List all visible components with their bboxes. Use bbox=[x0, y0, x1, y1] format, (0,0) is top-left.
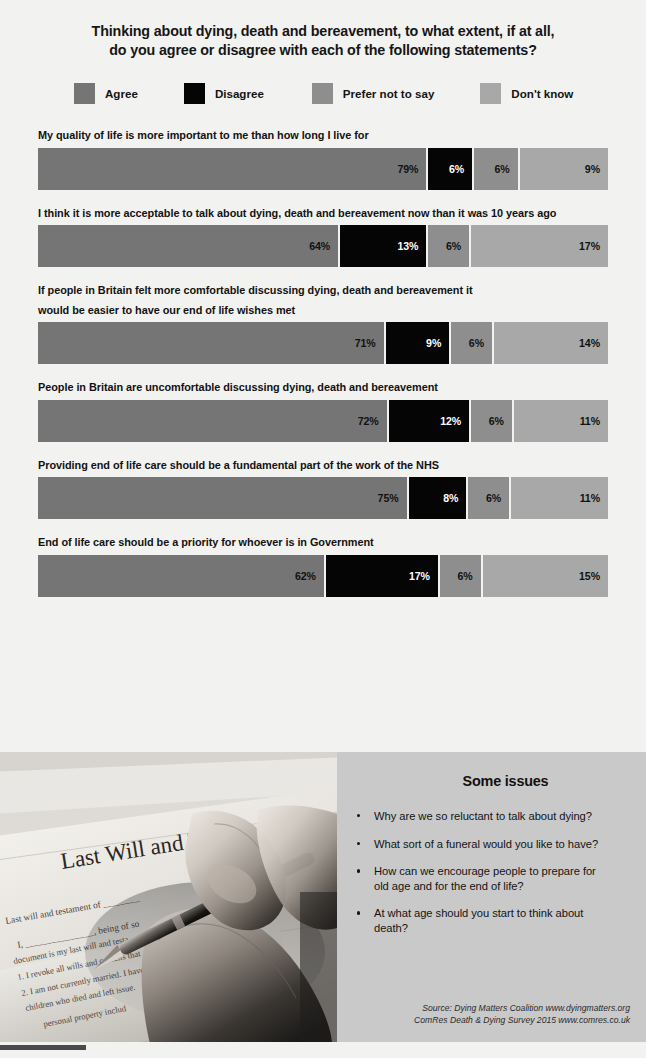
legend-item-dont-know: Don't know bbox=[480, 83, 573, 104]
bar-segment-agree[interactable]: 64% bbox=[38, 225, 340, 267]
page-title-line-1: Thinking about dying, death and bereavem… bbox=[34, 22, 612, 41]
bar-segment-dontknow[interactable]: 17% bbox=[471, 225, 608, 267]
issues-title: Some issues bbox=[383, 773, 628, 789]
bar-segment-prefer[interactable]: 6% bbox=[428, 225, 471, 267]
bar-segment-disagree[interactable]: 8% bbox=[409, 477, 469, 519]
stacked-bar: 62% 17% 6% 15% bbox=[38, 555, 608, 597]
legend-label-disagree: Disagree bbox=[215, 87, 264, 100]
bar-segment-dontknow[interactable]: 11% bbox=[514, 400, 608, 442]
chart-row: People in Britain are uncomfortable disc… bbox=[38, 380, 608, 442]
bar-segment-agree[interactable]: 79% bbox=[38, 148, 428, 190]
page-title-line-2: do you agree or disagree with each of th… bbox=[34, 41, 612, 60]
chart-row-label: People in Britain are uncomfortable disc… bbox=[38, 380, 608, 395]
source-line-1: Source: Dying Matters Coalition www.dyin… bbox=[414, 1003, 630, 1015]
bottom-strip bbox=[0, 1042, 646, 1058]
stacked-bar: 79% 6% 6% 9% bbox=[38, 148, 608, 190]
legend-item-agree: Agree bbox=[74, 83, 138, 104]
bullet-dot-icon bbox=[357, 842, 360, 845]
source-attribution: Source: Dying Matters Coalition www.dyin… bbox=[414, 1003, 630, 1026]
bar-segment-dontknow[interactable]: 9% bbox=[520, 148, 608, 190]
source-line-2: ComRes Death & Dying Survey 2015 www.com… bbox=[414, 1015, 630, 1027]
bottom-rule bbox=[0, 1045, 86, 1050]
chart-row-label: If people in Britain felt more comfortab… bbox=[38, 283, 608, 298]
stacked-bar: 64% 13% 6% 17% bbox=[38, 225, 608, 267]
list-item-text: Why are we so reluctant to talk about dy… bbox=[374, 810, 592, 822]
bar-segment-agree[interactable]: 72% bbox=[38, 400, 389, 442]
bar-segment-prefer[interactable]: 6% bbox=[451, 322, 494, 364]
chart-legend: Agree Disagree Prefer not to say Don't k… bbox=[34, 83, 612, 104]
bullet-dot-icon bbox=[357, 814, 360, 817]
bottom-section: Last Will and Testa Last will and testam… bbox=[0, 752, 646, 1058]
list-item-text-line2: old age and for the end of life? bbox=[374, 880, 524, 892]
bar-segment-agree[interactable]: 71% bbox=[38, 322, 386, 364]
bar-segment-prefer[interactable]: 6% bbox=[471, 400, 514, 442]
bar-segment-prefer[interactable]: 6% bbox=[474, 148, 520, 190]
legend-swatch-agree-icon bbox=[74, 83, 95, 104]
bullet-dot-icon bbox=[357, 869, 360, 872]
bar-segment-prefer[interactable]: 6% bbox=[468, 477, 511, 519]
list-item: Why are we so reluctant to talk about dy… bbox=[351, 809, 628, 824]
last-will-photo: Last Will and Testa Last will and testam… bbox=[0, 752, 337, 1042]
chart-row: Providing end of life care should be a f… bbox=[38, 458, 608, 520]
bar-segment-disagree[interactable]: 12% bbox=[389, 400, 472, 442]
chart-row-label: Providing end of life care should be a f… bbox=[38, 458, 608, 473]
legend-label-dont-know: Don't know bbox=[511, 87, 573, 100]
chart-row-label: I think it is more acceptable to talk ab… bbox=[38, 206, 608, 221]
legend-label-agree: Agree bbox=[105, 87, 138, 100]
legend-swatch-dontknow-icon bbox=[480, 83, 501, 104]
bullet-dot-icon bbox=[357, 911, 360, 914]
some-issues-panel: Some issues Why are we so reluctant to t… bbox=[337, 752, 646, 1042]
bar-segment-dontknow[interactable]: 14% bbox=[494, 322, 608, 364]
list-item-text: At what age should you start to think ab… bbox=[374, 907, 583, 919]
legend-item-disagree: Disagree bbox=[184, 83, 264, 104]
bar-segment-dontknow[interactable]: 15% bbox=[483, 555, 608, 597]
list-item-text-line2: death? bbox=[374, 922, 408, 934]
list-item: At what age should you start to think ab… bbox=[351, 906, 628, 935]
bar-segment-agree[interactable]: 75% bbox=[38, 477, 409, 519]
list-item-text: How can we encourage people to prepare f… bbox=[374, 865, 596, 877]
stacked-bar-chart: My quality of life is more important to … bbox=[0, 128, 646, 597]
chart-row: My quality of life is more important to … bbox=[38, 128, 608, 190]
photo-illustration: Last Will and Testa Last will and testam… bbox=[0, 752, 337, 1042]
chart-row-label-line2: would be easier to have our end of life … bbox=[38, 303, 608, 318]
bar-segment-prefer[interactable]: 6% bbox=[440, 555, 483, 597]
list-item-text: What sort of a funeral would you like to… bbox=[374, 838, 598, 850]
chart-row: End of life care should be a priority fo… bbox=[38, 535, 608, 597]
legend-item-prefer-not-to-say: Prefer not to say bbox=[312, 83, 435, 104]
bar-segment-disagree[interactable]: 13% bbox=[340, 225, 428, 267]
legend-label-prefer-not-to-say: Prefer not to say bbox=[343, 87, 435, 100]
bar-segment-disagree[interactable]: 17% bbox=[326, 555, 440, 597]
legend-swatch-prefer-icon bbox=[312, 83, 333, 104]
chart-row-label: My quality of life is more important to … bbox=[38, 128, 608, 143]
bar-segment-agree[interactable]: 62% bbox=[38, 555, 326, 597]
header: Thinking about dying, death and bereavem… bbox=[0, 0, 646, 104]
chart-row-label: End of life care should be a priority fo… bbox=[38, 535, 608, 550]
list-item: What sort of a funeral would you like to… bbox=[351, 837, 628, 852]
legend-swatch-disagree-icon bbox=[184, 83, 205, 104]
bar-segment-dontknow[interactable]: 11% bbox=[511, 477, 608, 519]
issues-list: Why are we so reluctant to talk about dy… bbox=[351, 809, 628, 936]
stacked-bar: 72% 12% 6% 11% bbox=[38, 400, 608, 442]
list-item: How can we encourage people to prepare f… bbox=[351, 864, 628, 893]
bar-segment-disagree[interactable]: 9% bbox=[386, 322, 452, 364]
stacked-bar: 75% 8% 6% 11% bbox=[38, 477, 608, 519]
bar-segment-disagree[interactable]: 6% bbox=[428, 148, 474, 190]
chart-row: I think it is more acceptable to talk ab… bbox=[38, 206, 608, 268]
stacked-bar: 71% 9% 6% 14% bbox=[38, 322, 608, 364]
chart-row: If people in Britain felt more comfortab… bbox=[38, 283, 608, 364]
